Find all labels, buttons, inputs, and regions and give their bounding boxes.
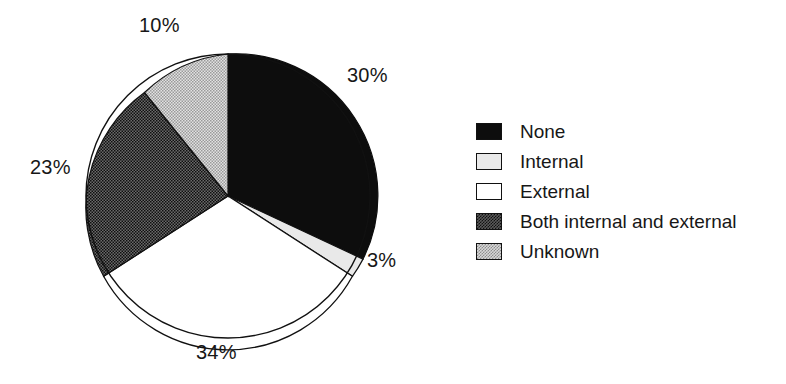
legend-swatch-both-internal-and-external [476, 213, 502, 230]
legend-label-unknown: Unknown [520, 242, 599, 261]
legend-label-none: None [520, 122, 565, 141]
pie-label-none: 30% [347, 64, 388, 87]
legend-label-internal: Internal [520, 152, 583, 171]
legend-item-external: External [476, 176, 737, 206]
chart-legend: None Internal External Both internal and… [476, 116, 737, 266]
legend-item-both-internal-and-external: Both internal and external [476, 206, 737, 236]
pie-slices [86, 54, 378, 350]
legend-swatch-internal [476, 153, 502, 170]
pie-label-external: 34% [196, 341, 237, 364]
legend-item-none: None [476, 116, 737, 146]
legend-swatch-none [476, 123, 502, 140]
legend-item-unknown: Unknown [476, 236, 737, 266]
pie-label-internal: 3% [367, 249, 396, 272]
pie-label-unknown: 10% [139, 14, 180, 37]
legend-label-external: External [520, 182, 590, 201]
legend-swatch-unknown [476, 243, 502, 260]
legend-item-internal: Internal [476, 146, 737, 176]
pie-label-both-internal-and-external: 23% [30, 156, 71, 179]
pie-chart-figure: 30% 3% 34% 23% 10% None Internal Externa… [0, 0, 786, 384]
legend-swatch-external [476, 183, 502, 200]
legend-label-both-internal-and-external: Both internal and external [520, 212, 737, 231]
